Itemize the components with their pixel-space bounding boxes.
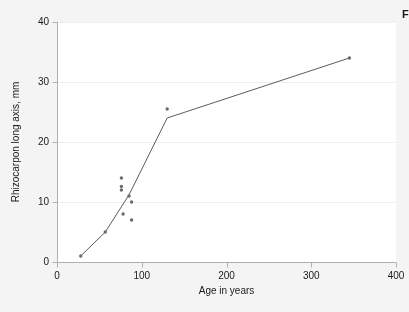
figure-corner-label: F [402, 8, 409, 20]
lichen-growth-scatter-chart [0, 0, 409, 312]
figure-container: F [0, 0, 409, 312]
